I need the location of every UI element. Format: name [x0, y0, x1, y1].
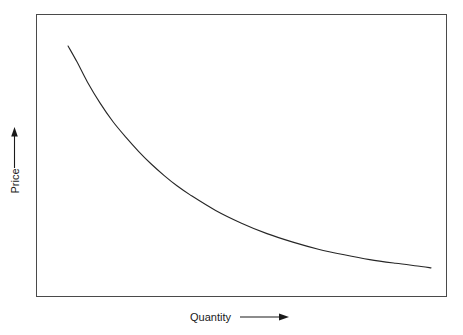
- plot-frame: [36, 14, 447, 297]
- y-axis-label-group: Price: [0, 124, 30, 216]
- y-axis-title: Price: [6, 144, 24, 218]
- x-axis-label-group: Quantity: [190, 306, 291, 328]
- right-arrow-icon: [239, 310, 291, 324]
- x-axis-title: Quantity: [190, 308, 231, 326]
- demand-curve-figure: Price Quantity: [0, 0, 463, 335]
